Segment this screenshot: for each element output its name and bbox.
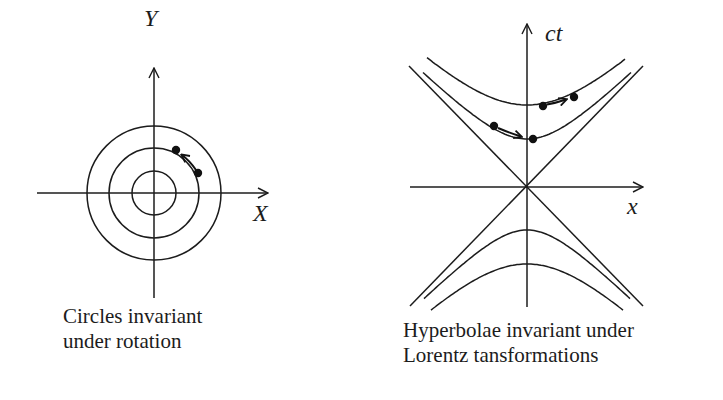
point-end bbox=[172, 146, 180, 154]
caption-hyperbolae: Hyperbolae invariant under Lorentz tansf… bbox=[403, 318, 634, 368]
rotation-diagram bbox=[37, 68, 268, 298]
ct-axis-label: ct bbox=[545, 21, 562, 45]
caption-hyperbolae-line-1: Hyperbolae invariant under bbox=[403, 318, 634, 343]
y-axis-label: Y bbox=[144, 6, 157, 30]
rotation-arrow-icon bbox=[182, 155, 196, 170]
caption-circles-line-1: Circles invariant bbox=[63, 304, 202, 329]
hyperbola-upper-outer bbox=[427, 58, 625, 105]
caption-circles-line-2: under rotation bbox=[63, 329, 202, 354]
x-axis-label: X bbox=[253, 201, 268, 225]
event-point-a1 bbox=[539, 102, 547, 110]
event-point-b1 bbox=[490, 122, 498, 130]
lorentz-diagram bbox=[409, 24, 643, 310]
spacetime-x-axis-label: x bbox=[627, 194, 638, 218]
caption-circles: Circles invariant under rotation bbox=[63, 304, 202, 354]
event-point-a2 bbox=[570, 93, 578, 101]
caption-hyperbolae-line-2: Lorentz tansformations bbox=[403, 343, 634, 368]
figure: Y X ct x Circles invariant under rotatio… bbox=[0, 0, 723, 400]
event-point-b2 bbox=[529, 135, 537, 143]
